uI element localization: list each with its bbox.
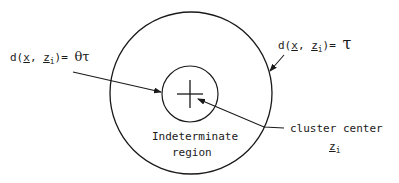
tau: τ <box>342 34 351 53</box>
comma: , <box>30 51 43 64</box>
comma: , <box>298 39 311 52</box>
subscript-i: i <box>50 57 55 66</box>
close-eq: )= <box>55 51 75 64</box>
var-z: z <box>311 39 318 52</box>
outer-boundary-label: d(x, zi)= τ <box>278 36 351 52</box>
subscript-i: i <box>318 45 323 54</box>
region-label-line2: region <box>172 147 212 158</box>
var-z: z <box>329 140 336 153</box>
inner-boundary-arrow <box>73 72 161 92</box>
cluster-center-cross-icon <box>177 80 203 108</box>
distance-func: d( <box>278 39 291 52</box>
subscript-i: i <box>336 146 341 155</box>
close-eq: )= <box>323 39 343 52</box>
outer-boundary-arrow <box>270 55 284 71</box>
var-z: z <box>43 51 50 64</box>
region-label-line1: Indeterminate <box>152 131 238 142</box>
theta-tau: θτ <box>74 49 89 64</box>
inner-boundary-label: d(x, zi)= θτ <box>10 50 89 63</box>
var-x: x <box>291 39 298 52</box>
cluster-center-symbol: zi <box>329 141 340 152</box>
cluster-center-label: cluster center <box>290 123 383 134</box>
var-x: x <box>23 51 30 64</box>
distance-func: d( <box>10 51 23 64</box>
